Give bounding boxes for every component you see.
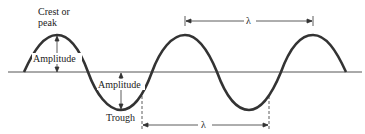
trough-label: Trough <box>106 112 135 123</box>
wave-svg: Crest or peak Amplitude Amplitude Trough… <box>0 0 365 134</box>
amplitude-label-bottom: Amplitude <box>98 79 141 90</box>
peak-label: peak <box>38 17 57 28</box>
wavelength-label-top: λ <box>246 15 251 26</box>
wavelength-label-bottom: λ <box>201 119 206 130</box>
wave-diagram: Crest or peak Amplitude Amplitude Trough… <box>0 0 365 134</box>
crest-label: Crest or <box>38 6 71 17</box>
amplitude-label-top: Amplitude <box>33 53 76 64</box>
